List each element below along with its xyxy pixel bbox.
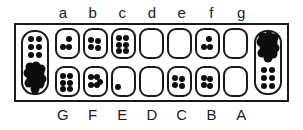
pit-column-5 bbox=[166, 28, 194, 97]
seed bbox=[116, 48, 122, 54]
bottom-label-B: B bbox=[197, 104, 227, 122]
seed bbox=[88, 82, 94, 88]
bottom-label-G: G bbox=[48, 104, 78, 122]
seed bbox=[95, 45, 101, 51]
top-label-row: a b c d e f g bbox=[48, 0, 256, 22]
bottom-label-D: D bbox=[137, 104, 167, 122]
pit-column-7 bbox=[222, 28, 250, 97]
pit-d[interactable] bbox=[139, 28, 164, 59]
seed bbox=[261, 67, 267, 73]
left-store-lower-seeds bbox=[23, 63, 47, 94]
top-label-f: f bbox=[197, 5, 227, 22]
seed bbox=[88, 37, 94, 43]
seed bbox=[269, 83, 275, 89]
pit-c[interactable] bbox=[111, 28, 136, 59]
top-label-d: d bbox=[137, 5, 167, 22]
pit-column-1 bbox=[53, 28, 81, 97]
pit-grid bbox=[53, 28, 250, 97]
seed bbox=[28, 52, 34, 58]
seed bbox=[179, 83, 185, 89]
pit-b[interactable] bbox=[83, 28, 108, 59]
pit-column-3 bbox=[109, 28, 137, 97]
pit-f[interactable] bbox=[195, 28, 220, 59]
right-store-upper-seeds bbox=[256, 32, 280, 63]
seed bbox=[123, 35, 129, 41]
seed bbox=[264, 54, 273, 63]
right-store[interactable] bbox=[254, 30, 282, 95]
seed bbox=[88, 44, 94, 50]
bottom-label-E: E bbox=[107, 104, 137, 122]
seed bbox=[66, 44, 72, 50]
top-label-g: g bbox=[226, 5, 256, 22]
pit-F[interactable] bbox=[83, 66, 108, 97]
bottom-label-row: G F E D C B A bbox=[48, 104, 256, 126]
left-store[interactable] bbox=[21, 30, 49, 95]
pit-C[interactable] bbox=[167, 66, 192, 97]
seed bbox=[201, 82, 207, 88]
seed bbox=[269, 75, 275, 81]
seed bbox=[66, 36, 72, 42]
seed bbox=[172, 75, 178, 81]
seed bbox=[60, 86, 66, 92]
pit-g[interactable] bbox=[223, 28, 248, 59]
seed bbox=[67, 86, 73, 92]
seed bbox=[172, 82, 178, 88]
seed bbox=[201, 75, 207, 81]
seed bbox=[67, 73, 73, 79]
top-label-a: a bbox=[48, 5, 78, 22]
seed bbox=[97, 79, 103, 85]
top-label-c: c bbox=[107, 5, 137, 22]
pit-E[interactable] bbox=[111, 66, 136, 97]
seed bbox=[207, 83, 213, 89]
pit-e[interactable] bbox=[167, 28, 192, 59]
pit-B[interactable] bbox=[195, 66, 220, 97]
left-store-upper-seeds bbox=[23, 32, 47, 63]
seed bbox=[201, 44, 207, 50]
seed bbox=[60, 44, 66, 50]
seed bbox=[95, 38, 101, 44]
seed bbox=[31, 84, 40, 93]
seed bbox=[206, 36, 212, 42]
pit-column-2 bbox=[81, 28, 109, 97]
top-label-b: b bbox=[78, 5, 108, 22]
right-store-lower-seeds bbox=[256, 63, 280, 94]
seed bbox=[36, 52, 42, 58]
bottom-label-A: A bbox=[226, 104, 256, 122]
seed bbox=[261, 75, 267, 81]
seed bbox=[36, 44, 42, 50]
seed bbox=[123, 48, 129, 54]
seed bbox=[207, 76, 213, 82]
seed bbox=[60, 73, 66, 79]
bottom-label-C: C bbox=[167, 104, 197, 122]
seed bbox=[36, 36, 42, 42]
pit-G[interactable] bbox=[55, 66, 80, 97]
bottom-label-F: F bbox=[78, 104, 108, 122]
mancala-board-figure: a b c d e f g bbox=[0, 0, 303, 130]
pit-a[interactable] bbox=[55, 28, 80, 59]
seed bbox=[207, 44, 213, 50]
pit-D[interactable] bbox=[139, 66, 164, 97]
seed bbox=[28, 36, 34, 42]
seed bbox=[261, 83, 267, 89]
pit-A[interactable] bbox=[223, 66, 248, 97]
seed bbox=[179, 76, 185, 82]
seed bbox=[116, 35, 122, 41]
pit-column-4 bbox=[137, 28, 165, 97]
board-frame bbox=[14, 23, 289, 102]
seed bbox=[28, 44, 34, 50]
seed bbox=[115, 84, 121, 90]
pit-column-6 bbox=[194, 28, 222, 97]
seed bbox=[269, 67, 275, 73]
top-label-e: e bbox=[167, 5, 197, 22]
